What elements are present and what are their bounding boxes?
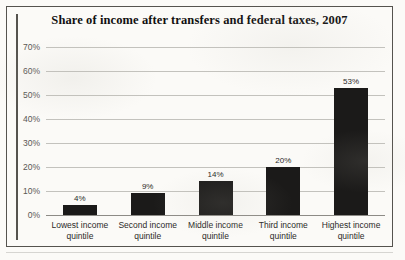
y-axis-tick-label: 0% <box>28 210 40 220</box>
x-axis-category-label: Third incomequintile <box>249 220 317 241</box>
bar-value-label: 9% <box>142 182 154 191</box>
bar: 4%Lowest incomequintile <box>63 205 97 215</box>
chart-title: Share of income after transfers and fede… <box>6 13 393 28</box>
y-axis-tick-label: 30% <box>23 138 40 148</box>
gridline-70% <box>46 47 385 48</box>
bar-value-label: 4% <box>74 194 86 203</box>
category-label-line2: quintile <box>46 231 114 242</box>
y-axis-tick-label: 60% <box>23 66 40 76</box>
category-label-line1: Third income <box>259 220 308 230</box>
y-axis-line <box>16 14 18 240</box>
y-axis-tick-label: 50% <box>23 90 40 100</box>
category-label-line2: quintile <box>182 231 250 242</box>
x-axis-category-label: Middle incomequintile <box>182 220 250 241</box>
category-label-line2: quintile <box>249 231 317 242</box>
y-axis-tick-label: 70% <box>23 42 40 52</box>
category-label-line1: Highest income <box>322 220 381 230</box>
chart-screenshot: Share of income after transfers and fede… <box>0 0 405 260</box>
x-axis-category-label: Lowest incomequintile <box>46 220 114 241</box>
category-label-line2: quintile <box>317 231 385 242</box>
x-axis-category-label: Highest incomequintile <box>317 220 385 241</box>
bar-value-label: 14% <box>207 170 223 179</box>
category-label-line1: Lowest income <box>52 220 109 230</box>
bar: 9%Second incomequintile <box>131 193 165 215</box>
bar-value-label: 53% <box>343 77 359 86</box>
bar-value-label: 20% <box>275 156 291 165</box>
bottom-divider <box>6 252 393 253</box>
category-label-line2: quintile <box>114 231 182 242</box>
gridline-60% <box>46 71 385 72</box>
axis-baseline <box>46 215 385 216</box>
y-axis-tick-label: 20% <box>23 162 40 172</box>
category-label-line1: Second income <box>118 220 177 230</box>
plot-area: 0%10%20%30%40%50%60%70%4%Lowest incomequ… <box>46 47 385 215</box>
y-axis-tick-label: 40% <box>23 114 40 124</box>
bar: 53%Highest incomequintile <box>334 88 368 215</box>
y-axis-tick-label: 10% <box>23 186 40 196</box>
category-label-line1: Middle income <box>188 220 243 230</box>
bar: 20%Third incomequintile <box>266 167 300 215</box>
bar: 14%Middle incomequintile <box>199 181 233 215</box>
x-axis-category-label: Second incomequintile <box>114 220 182 241</box>
